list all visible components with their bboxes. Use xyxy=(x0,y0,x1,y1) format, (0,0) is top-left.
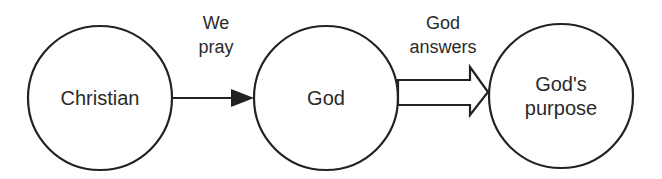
node-gods-purpose-label-line2: purpose xyxy=(501,96,621,120)
edge-answers-label: God answers xyxy=(393,11,493,59)
node-gods-purpose-label-line1: God's xyxy=(501,72,621,96)
edge-pray-label-line1: We xyxy=(181,11,251,35)
pray-arrow xyxy=(172,89,254,107)
node-god-label: God xyxy=(276,86,376,110)
edge-answers-label-line2: answers xyxy=(393,35,493,59)
node-gods-purpose-label: God's purpose xyxy=(501,72,621,120)
edge-answers-label-line1: God xyxy=(393,11,493,35)
edge-pray-label-line2: pray xyxy=(181,35,251,59)
edge-pray-label: We pray xyxy=(181,11,251,59)
node-christian-label: Christian xyxy=(40,86,160,110)
answer-hollow-arrow xyxy=(398,67,488,115)
